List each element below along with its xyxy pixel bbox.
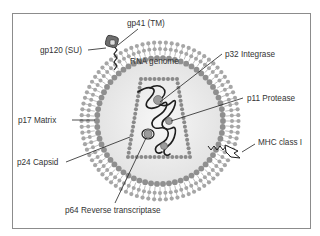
matrix-bead bbox=[148, 180, 154, 186]
lipid-head-outer bbox=[105, 176, 109, 180]
lipid-head-outer bbox=[80, 131, 84, 135]
lipid-head-inner bbox=[189, 54, 193, 58]
lipid-head-outer bbox=[170, 41, 174, 45]
lipid-tail bbox=[125, 60, 127, 63]
lipid-tail bbox=[99, 86, 102, 88]
capsid-bead bbox=[179, 103, 183, 107]
capsid-bead bbox=[184, 133, 188, 137]
capsid-bead bbox=[157, 77, 161, 81]
lipid-head-outer bbox=[97, 70, 101, 74]
lipid-head-outer bbox=[164, 197, 168, 201]
capsid-bead bbox=[127, 146, 131, 150]
matrix-bead bbox=[198, 166, 204, 172]
label-p17-matrix: p17 Matrix bbox=[18, 116, 56, 125]
lipid-tail bbox=[109, 166, 112, 169]
lipid-tail bbox=[208, 73, 211, 76]
label-p64-reverse-transcriptase: p64 Reverse transcriptase bbox=[65, 206, 161, 215]
matrix-bead bbox=[203, 75, 209, 81]
lipid-head-outer bbox=[119, 51, 123, 55]
lipid-head-outer bbox=[80, 113, 84, 117]
lipid-head-outer bbox=[100, 172, 104, 176]
lipid-head-inner bbox=[225, 93, 229, 97]
capsid-bead bbox=[131, 125, 135, 129]
lipid-head-inner bbox=[199, 60, 203, 64]
lipid-tail bbox=[179, 54, 180, 58]
matrix-bead bbox=[97, 100, 103, 106]
lipid-head-inner bbox=[214, 164, 218, 168]
matrix-bead bbox=[154, 181, 160, 187]
capsid-bead bbox=[157, 155, 161, 159]
lipid-tail bbox=[105, 77, 108, 79]
matrix-bead bbox=[97, 136, 103, 142]
matrix-bead bbox=[203, 162, 209, 168]
capsid-bead bbox=[187, 151, 191, 155]
matrix-bead bbox=[207, 79, 213, 85]
lipid-head-inner bbox=[207, 66, 211, 70]
matrix-bead bbox=[94, 118, 100, 124]
lipid-head-outer bbox=[90, 80, 94, 84]
lipid-tail bbox=[97, 91, 101, 93]
lipid-tail bbox=[175, 185, 176, 189]
lipid-head-outer bbox=[93, 75, 97, 79]
lipid-head-outer bbox=[223, 163, 227, 167]
lipid-tail bbox=[184, 182, 185, 186]
label-gp41: gp41 (TM) bbox=[127, 19, 165, 28]
capsid-bead bbox=[133, 112, 137, 116]
lipid-head-inner bbox=[89, 98, 93, 102]
capsid-bead bbox=[178, 94, 182, 98]
capsid-bead bbox=[126, 155, 130, 159]
matrix-bead bbox=[183, 175, 189, 181]
lipid-head-inner bbox=[109, 172, 113, 176]
lipid-head-inner bbox=[230, 124, 234, 128]
lipid-head-outer bbox=[181, 44, 185, 48]
lipid-head-inner bbox=[228, 103, 232, 107]
lipid-head-outer bbox=[234, 101, 238, 105]
matrix-bead bbox=[116, 70, 122, 76]
lipid-head-outer bbox=[135, 44, 139, 48]
lipid-head-inner bbox=[113, 175, 117, 179]
lipid-head-inner bbox=[223, 88, 227, 92]
lipid-head-outer bbox=[140, 42, 144, 46]
lipid-tail bbox=[144, 185, 145, 189]
label-p24-capsid: p24 Capsid bbox=[17, 158, 59, 167]
hiv-virion-diagram: gp41 (TM) gp120 (SU) RNA genome p32 Inte… bbox=[0, 0, 320, 236]
label-rna-genome: RNA genome bbox=[130, 57, 179, 66]
capsid-bead bbox=[183, 125, 187, 129]
lipid-head-inner bbox=[203, 175, 207, 179]
lipid-head-inner bbox=[153, 47, 157, 51]
lipid-head-inner bbox=[105, 168, 109, 172]
capsid-bead bbox=[130, 133, 134, 137]
capsid-bead bbox=[166, 77, 170, 81]
lipid-head-outer bbox=[202, 54, 206, 58]
lipid-tail bbox=[223, 100, 227, 101]
lipid-head-inner bbox=[91, 93, 95, 97]
matrix-bead bbox=[183, 61, 189, 67]
lipid-head-inner bbox=[220, 83, 224, 87]
capsid-bead bbox=[135, 103, 139, 107]
lipid-head-inner bbox=[117, 60, 121, 64]
lipid-head-outer bbox=[124, 48, 128, 52]
capsid-bead bbox=[153, 77, 157, 81]
capsid-bead bbox=[179, 155, 183, 159]
capsid-bead bbox=[138, 81, 142, 85]
matrix-bead bbox=[112, 162, 118, 168]
lipid-head-outer bbox=[109, 58, 113, 62]
lipid-tail bbox=[189, 180, 191, 184]
matrix-bead bbox=[136, 178, 142, 184]
lipid-head-inner bbox=[158, 47, 162, 51]
lipid-tail bbox=[179, 184, 180, 188]
capsid-bead bbox=[177, 90, 181, 94]
capsid-bead bbox=[179, 99, 183, 103]
lipid-head-outer bbox=[129, 192, 133, 196]
lipid-head-outer bbox=[233, 96, 237, 100]
lipid-head-outer bbox=[175, 42, 179, 46]
matrix-bead bbox=[142, 179, 148, 185]
lipid-head-inner bbox=[228, 135, 232, 139]
lipid-head-inner bbox=[86, 114, 90, 118]
capsid-bead bbox=[132, 120, 136, 124]
capsid-bead bbox=[133, 116, 137, 120]
lipid-head-outer bbox=[152, 41, 156, 45]
lipid-head-outer bbox=[236, 131, 240, 135]
matrix-bead bbox=[108, 157, 114, 163]
lipid-head-inner bbox=[137, 50, 141, 54]
